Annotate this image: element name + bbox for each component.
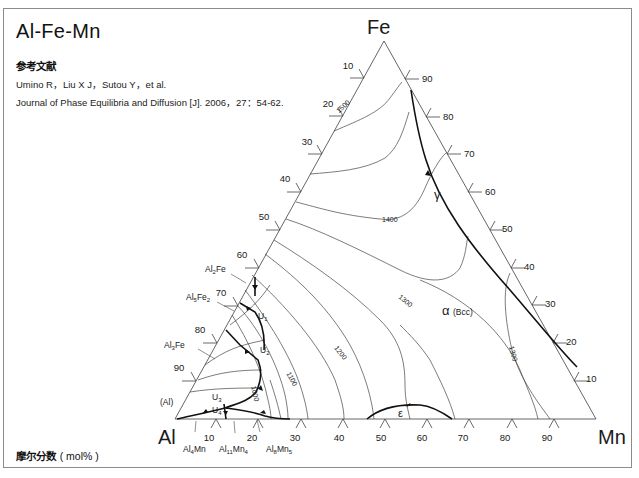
svg-text:60: 60 [417,432,428,443]
svg-text:Al11Mn4: Al11Mn4 [219,444,249,455]
vertex-label-al: Al [158,426,176,448]
svg-text:30: 30 [290,432,301,443]
svg-text:50: 50 [502,223,513,234]
bottom-edge-tick-labels: 10 20 30 40 50 60 70 80 90 [204,432,553,443]
svg-text:70: 70 [464,148,475,159]
svg-text:Al2Fe: Al2Fe [205,264,226,275]
bottom-edge-ticks [211,419,559,428]
svg-text:80: 80 [195,324,206,335]
svg-text:90: 90 [422,73,433,84]
svg-text:10: 10 [204,432,215,443]
vertex-label-fe: Fe [367,16,390,38]
svg-text:20: 20 [566,336,577,347]
svg-text:U3: U3 [212,392,222,403]
isotherm-label-1200: 1200 [333,344,348,361]
svg-text:90: 90 [542,432,553,443]
vertex-label-mn: Mn [598,426,626,448]
svg-text:U2: U2 [260,345,270,356]
phase-label-gamma: γ [434,187,441,202]
svg-text:30: 30 [545,298,556,309]
svg-text:40: 40 [280,173,291,184]
svg-text:Al3Fe: Al3Fe [164,340,185,351]
svg-text:30: 30 [302,136,313,147]
svg-text:10: 10 [343,60,354,71]
svg-text:U4: U4 [212,405,222,416]
phase-label-al: (Al) [160,397,173,407]
svg-text:80: 80 [500,432,511,443]
svg-text:Al8Mn5: Al8Mn5 [266,444,293,455]
svg-text:40: 40 [334,432,345,443]
phase-label-epsilon: ε [398,407,403,419]
isotherm-label-1500: 1500 [335,99,351,115]
right-edge-ticks [405,70,588,381]
svg-text:80: 80 [443,111,454,122]
phase-label-bcc: (Bcc) [453,307,473,317]
svg-text:U1: U1 [258,311,268,322]
isotherm-label-1100: 1100 [285,371,298,388]
left-edge-tick-labels: 10 20 30 40 50 60 70 80 90 [174,60,354,373]
svg-text:50: 50 [259,211,270,222]
triangle-outline [175,41,596,419]
phase-label-alpha: α [442,303,450,318]
isotherm-label-1300: 1300 [397,293,414,308]
svg-text:Al4Mn: Al4Mn [183,444,206,455]
compound-labels: Al2Fe Al5Fe2 Al3Fe Al4Mn Al11Mn4 Al8Mn5 [164,264,293,455]
arrow-markers [202,170,431,415]
isotherm-label-1400: 1400 [382,216,398,223]
svg-text:20: 20 [247,432,258,443]
ternary-diagram: 10 20 30 40 50 60 70 80 90 90 80 70 60 5… [0,0,639,478]
isotherm-label-1300-right: 1300 [508,345,519,362]
svg-text:60: 60 [485,186,496,197]
svg-text:70: 70 [458,432,469,443]
svg-text:60: 60 [237,249,248,260]
svg-text:10: 10 [586,373,597,384]
svg-text:90: 90 [174,362,185,373]
svg-text:70: 70 [216,287,227,298]
svg-text:20: 20 [323,98,334,109]
svg-text:Al5Fe2: Al5Fe2 [186,292,211,303]
svg-text:40: 40 [524,261,535,272]
left-edge-ticks [182,69,364,381]
svg-text:50: 50 [376,432,387,443]
